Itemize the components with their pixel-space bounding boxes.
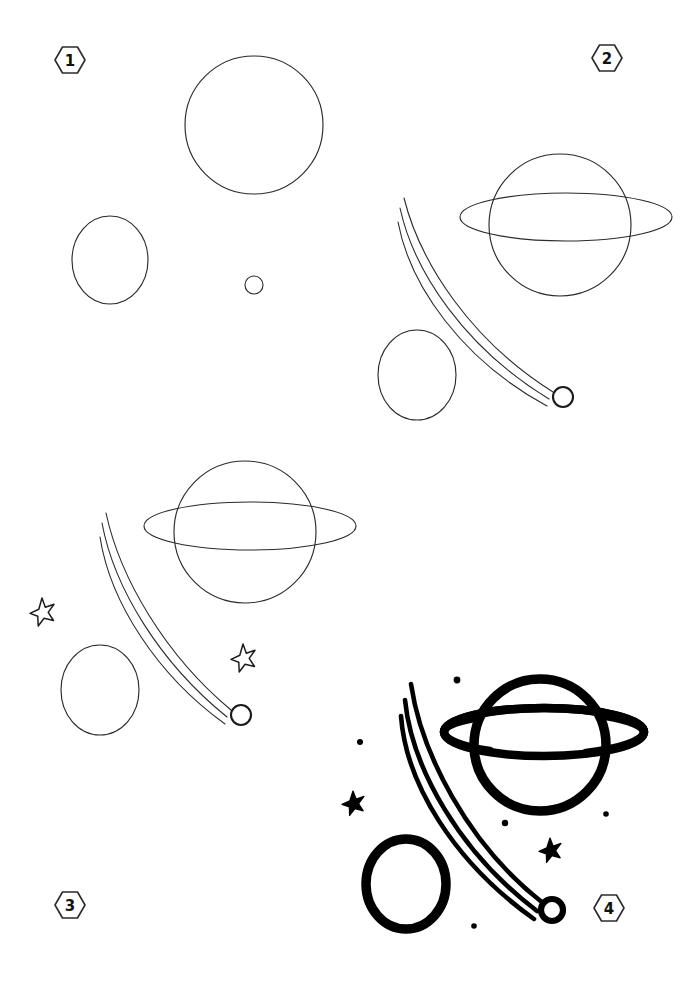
- step-3-panel: 3: [30, 461, 356, 918]
- comet-head-circle: [245, 276, 263, 294]
- planet-ring-ellipse: [460, 193, 672, 241]
- planet-ring-left-wing: [444, 718, 490, 751]
- sparkle-dot: [357, 739, 363, 745]
- moon-oval: [61, 645, 139, 735]
- planet-body-circle: [489, 154, 631, 296]
- step-2-badge: 2: [592, 45, 622, 71]
- step-number-label: 1: [65, 52, 75, 70]
- comet-trail-line: [398, 222, 547, 406]
- step-number-label: 4: [604, 900, 614, 918]
- planet-ring-right-wing: [586, 716, 644, 753]
- step-4-badge: 4: [594, 895, 624, 921]
- planet-body-circle: [174, 461, 316, 603]
- step-number-label: 2: [602, 50, 612, 68]
- sparkle-dot: [502, 820, 508, 826]
- star-outline: [30, 598, 54, 626]
- step-1-panel: 1: [55, 47, 323, 304]
- sparkle-dot: [603, 811, 609, 817]
- star-filled: [539, 838, 561, 863]
- comet-head-circle: [553, 387, 573, 407]
- moon-oval: [72, 216, 148, 304]
- star-outline: [231, 644, 255, 672]
- moon-oval: [378, 330, 456, 420]
- tutorial-sheet: 1 2 3: [0, 0, 700, 986]
- drawing-canvas: 1 2 3: [0, 0, 700, 986]
- sparkle-dot: [471, 923, 477, 929]
- comet-trail-line: [400, 208, 549, 399]
- star-filled: [342, 791, 364, 816]
- moon-oval: [366, 839, 446, 929]
- comet-trail-line: [100, 537, 225, 724]
- step-number-label: 3: [65, 897, 75, 915]
- step-3-badge: 3: [55, 892, 85, 918]
- sparkle-dot: [454, 677, 461, 684]
- planet-body-circle: [185, 56, 323, 194]
- planet-body-circle: [474, 679, 606, 811]
- comet-trail-line: [106, 513, 231, 710]
- comet-trail-line: [404, 198, 553, 392]
- step-1-badge: 1: [55, 47, 85, 73]
- step-2-panel: 2: [378, 45, 672, 420]
- comet-head-circle: [231, 705, 251, 725]
- step-4-panel: 4: [342, 677, 644, 929]
- comet-trail-line: [102, 523, 227, 717]
- comet-head-circle: [541, 899, 563, 921]
- planet-ring-ellipse: [144, 502, 356, 550]
